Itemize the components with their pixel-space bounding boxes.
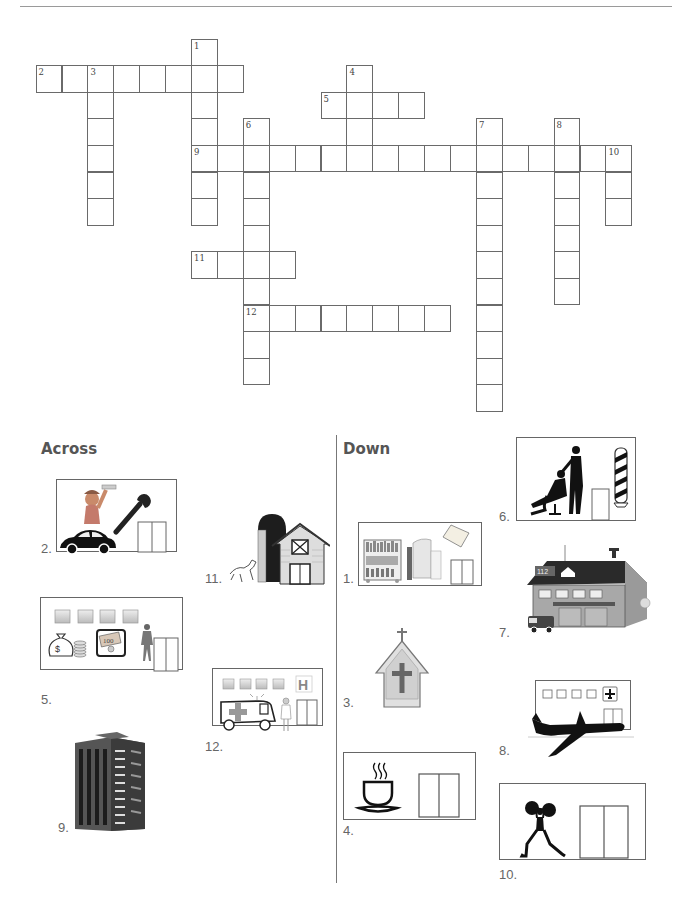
crossword-cell[interactable] (398, 305, 425, 333)
crossword-cell[interactable] (217, 251, 244, 279)
crossword-cell[interactable] (554, 172, 581, 200)
crossword-cell[interactable] (269, 305, 296, 333)
crossword-cell[interactable] (243, 278, 270, 306)
crossword-cell[interactable]: 3 (87, 65, 114, 93)
crossword-cell[interactable] (398, 145, 425, 173)
crossword-cell[interactable] (191, 65, 218, 93)
library-icon (359, 523, 481, 585)
clue-number: 4. (343, 823, 354, 838)
crossword-cell[interactable] (113, 65, 140, 93)
crossword-cell[interactable]: 10 (605, 145, 632, 173)
crossword-cell[interactable] (398, 92, 425, 120)
crossword-cell[interactable] (476, 384, 503, 412)
crossword-cell[interactable] (191, 92, 218, 120)
crossword-cell[interactable] (321, 145, 348, 173)
crossword-cell[interactable] (476, 225, 503, 253)
crossword-cell[interactable] (476, 172, 503, 200)
crossword-cell[interactable] (87, 198, 114, 226)
crossword-cell[interactable]: 11 (191, 251, 218, 279)
crossword-cell[interactable] (295, 145, 322, 173)
crossword-cell[interactable] (554, 225, 581, 253)
airport-icon (528, 681, 638, 761)
crossword-cell[interactable] (87, 92, 114, 120)
crossword-cell[interactable] (243, 198, 270, 226)
crossword-cell[interactable] (424, 145, 451, 173)
crossword-cell[interactable] (243, 331, 270, 359)
cell-number: 4 (349, 68, 354, 77)
crossword-cell[interactable] (476, 358, 503, 386)
barber-shop-icon (517, 438, 635, 520)
crossword-cell[interactable] (476, 278, 503, 306)
clue-number: 3. (343, 695, 354, 710)
crossword-cell[interactable] (165, 65, 192, 93)
cell-number: 5 (324, 95, 329, 104)
crossword-cell[interactable] (372, 92, 399, 120)
crossword-cell[interactable] (243, 358, 270, 386)
crossword-cell[interactable]: 8 (554, 118, 581, 146)
cell-number: 9 (194, 148, 199, 157)
crossword-cell[interactable] (605, 198, 632, 226)
crossword-cell[interactable] (528, 145, 555, 173)
svg-text:$: $ (55, 644, 60, 654)
crossword-cell[interactable] (372, 305, 399, 333)
crossword-cell[interactable] (191, 118, 218, 146)
crossword-cell[interactable]: 4 (346, 65, 373, 93)
clue-number: 11. (205, 571, 222, 586)
crossword-cell[interactable]: 12 (243, 305, 270, 333)
crossword-cell[interactable] (321, 305, 348, 333)
apartment-building-icon (73, 729, 149, 834)
hospital-sign: H (298, 677, 308, 693)
crossword-cell[interactable] (372, 145, 399, 173)
crossword-cell[interactable] (346, 145, 373, 173)
crossword-cell[interactable] (191, 172, 218, 200)
crossword-cell[interactable] (554, 198, 581, 226)
crossword-cell[interactable] (243, 225, 270, 253)
crossword-cell[interactable] (346, 118, 373, 146)
crossword-cell[interactable] (346, 92, 373, 120)
crossword-cell[interactable] (502, 145, 529, 173)
cell-number: 1 (194, 42, 199, 51)
crossword-cell[interactable] (295, 305, 322, 333)
crossword-cell[interactable] (476, 198, 503, 226)
crossword-cell[interactable] (476, 251, 503, 279)
crossword-cell[interactable] (62, 65, 89, 93)
crossword-cell[interactable] (217, 145, 244, 173)
crossword-cell[interactable]: 7 (476, 118, 503, 146)
crossword-cell[interactable] (450, 145, 477, 173)
crossword-cell[interactable]: 2 (36, 65, 63, 93)
crossword-cell[interactable] (554, 278, 581, 306)
farm-barn-icon (228, 512, 330, 588)
crossword-cell[interactable] (554, 145, 581, 173)
crossword-cell[interactable] (580, 145, 607, 173)
clue-number: 9. (58, 820, 69, 835)
crossword-cell[interactable] (87, 172, 114, 200)
clue-number: 1. (343, 571, 354, 586)
crossword-cell[interactable] (87, 145, 114, 173)
crossword-cell[interactable] (476, 305, 503, 333)
crossword-cell[interactable]: 9 (191, 145, 218, 173)
crossword-cell[interactable] (87, 118, 114, 146)
crossword-cell[interactable] (476, 331, 503, 359)
bank-note-label: 100 (103, 637, 114, 645)
crossword-cell[interactable] (605, 172, 632, 200)
crossword-cell[interactable] (554, 251, 581, 279)
clue-number: 12. (205, 739, 223, 754)
crossword-cell[interactable]: 6 (243, 118, 270, 146)
clue-number: 7. (499, 625, 510, 640)
crossword-cell[interactable] (217, 65, 244, 93)
cell-number: 11 (194, 254, 205, 263)
crossword-cell[interactable] (269, 145, 296, 173)
clue-number: 10. (499, 867, 517, 882)
crossword-cell[interactable] (476, 145, 503, 173)
crossword-cell[interactable]: 1 (191, 39, 218, 67)
crossword-cell[interactable] (269, 251, 296, 279)
crossword-cell[interactable] (243, 172, 270, 200)
crossword-cell[interactable] (346, 305, 373, 333)
column-divider (336, 435, 337, 883)
crossword-cell[interactable] (243, 251, 270, 279)
crossword-cell[interactable] (243, 145, 270, 173)
crossword-cell[interactable] (191, 198, 218, 226)
crossword-cell[interactable] (424, 305, 451, 333)
crossword-cell[interactable]: 5 (321, 92, 348, 120)
crossword-cell[interactable] (139, 65, 166, 93)
